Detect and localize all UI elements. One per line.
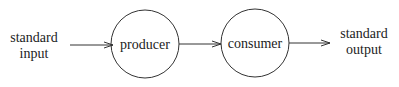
stdout-label: standard output: [340, 26, 387, 57]
diagram-canvas: standard input producer consumer standar…: [0, 0, 399, 87]
stdin-label-line-2: input: [20, 46, 49, 61]
producer-label: producer: [120, 37, 170, 52]
stdin-label-line-1: standard: [10, 30, 57, 45]
pipeline-diagram: standard input producer consumer standar…: [0, 0, 399, 87]
consumer-node: consumer: [221, 9, 289, 77]
stdout-label-line-2: output: [346, 42, 382, 57]
consumer-label: consumer: [228, 36, 283, 51]
stdout-label-line-1: standard: [340, 26, 387, 41]
producer-node: producer: [111, 10, 179, 78]
stdin-label: standard input: [10, 30, 57, 61]
